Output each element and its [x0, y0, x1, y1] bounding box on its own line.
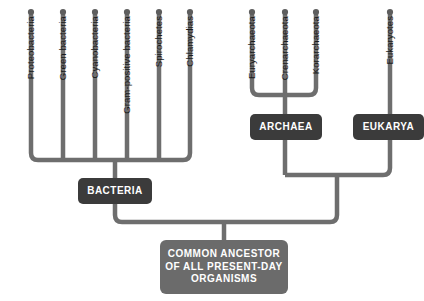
- archaea-branch-label-3: Korarchaeota: [310, 16, 321, 74]
- root-box-common-ancestor-line-2: OF ALL PRESENT-DAY: [165, 261, 283, 274]
- bacteria-root-connector: [115, 204, 122, 222]
- archaea-branch-label-1: Euryarchaeota: [246, 16, 257, 79]
- bacteria-tip-dot-6: [187, 9, 193, 15]
- bacteria-branch-label-4: Gram-positive bacteria: [121, 16, 132, 114]
- bacteria-branch-label-5: Spirochetes: [153, 16, 164, 67]
- root-box-common-ancestor-line-3: ORGANISMS: [165, 273, 283, 286]
- bacteria-tip-dot-5: [156, 9, 162, 15]
- domain-box-archaea: ARCHAEA: [250, 114, 322, 140]
- root-box-common-ancestor-text: COMMON ANCESTOROF ALL PRESENT-DAYORGANIS…: [165, 248, 283, 286]
- bacteria-tip-dot-1: [28, 9, 34, 15]
- bacteria-branch-label-2: Green bacteria: [57, 16, 68, 80]
- archaea-tip-dot-2: [282, 9, 288, 15]
- eukarya-root-connector: [383, 140, 390, 175]
- archaea-tip-dot-3: [313, 9, 319, 15]
- archaea-eukarya-stem: [330, 175, 337, 222]
- bacteria-branch-label-6: Chlamydias: [184, 16, 195, 67]
- eukarya-branch-label-1: Eukaryotes: [384, 16, 395, 65]
- root-box-common-ancestor: COMMON ANCESTOROF ALL PRESENT-DAYORGANIS…: [160, 240, 288, 294]
- branch-tip-dot-group: [28, 9, 393, 15]
- phylogenetic-tree-diagram: ProteobacteriaGreen bacteriaCyanobacteri…: [0, 0, 424, 301]
- bacteria-branch-label-3: Cyanobacteria: [89, 16, 100, 79]
- archaea-branch-label-2: Crenarchaeota: [279, 16, 290, 80]
- bacteria-tip-dot-2: [60, 9, 66, 15]
- root-box-common-ancestor-line-1: COMMON ANCESTOR: [165, 248, 283, 261]
- bacteria-tip-dot-4: [124, 9, 130, 15]
- archaea-tip-dot-1: [249, 9, 255, 15]
- branch-line-group: [31, 12, 390, 240]
- bacteria-branch-label-1: Proteobacteria: [25, 16, 36, 79]
- eukarya-tip-dot-1: [387, 9, 393, 15]
- bacteria-tip-dot-3: [92, 9, 98, 15]
- domain-box-eukarya: EUKARYA: [353, 114, 424, 140]
- domain-box-bacteria: BACTERIA: [78, 178, 152, 204]
